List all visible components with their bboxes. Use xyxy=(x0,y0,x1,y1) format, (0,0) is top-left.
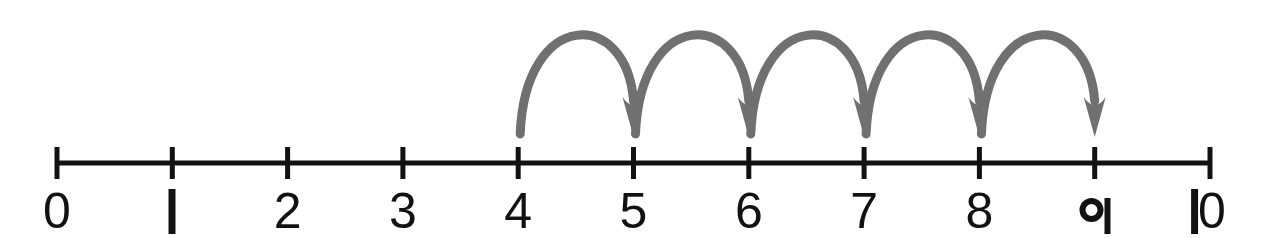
jump-arc-5-to-6 xyxy=(636,35,760,137)
digit-zero-glyph: 0 xyxy=(1198,183,1229,238)
tick-label-5: 5 xyxy=(620,186,648,236)
jump-arc-6-to-7 xyxy=(751,35,875,137)
jump-arc-shaft xyxy=(866,35,979,134)
jump-arc-8-to-9 xyxy=(981,35,1105,137)
number-line-figure: 023456780 xyxy=(0,0,1278,238)
tick-label-3: 3 xyxy=(389,186,417,236)
jump-arc-shaft xyxy=(520,35,633,134)
tick-label-8: 8 xyxy=(965,186,993,236)
jump-arc-4-to-5 xyxy=(520,35,644,137)
tick-label-9 xyxy=(1079,186,1110,236)
jump-arc-shaft xyxy=(751,35,864,134)
jump-arcs xyxy=(520,35,1105,137)
tick-label-0: 0 xyxy=(43,186,71,236)
digit-one-glyph xyxy=(1191,189,1198,234)
tick-label-7: 7 xyxy=(850,186,878,236)
jump-arc-shaft xyxy=(636,35,749,134)
tick-label-6: 6 xyxy=(735,186,763,236)
tick-label-4: 4 xyxy=(504,186,532,236)
tick-label-2: 2 xyxy=(274,186,302,236)
digit-one-glyph xyxy=(169,189,176,234)
tick-label-1 xyxy=(169,186,176,236)
tick-label-10: 0 xyxy=(1191,186,1229,236)
jump-arc-7-to-8 xyxy=(866,35,990,137)
digit-nine-glyph xyxy=(1079,189,1110,234)
jump-arc-shaft xyxy=(981,35,1094,134)
